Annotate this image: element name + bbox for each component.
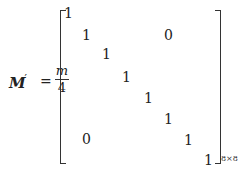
diag-8: 1	[204, 153, 213, 167]
diag-7: 1	[184, 133, 193, 147]
diag-6: 1	[164, 112, 173, 126]
diag-3: 1	[102, 47, 111, 61]
diag-2: 1	[82, 28, 91, 42]
upper-zero: 0	[164, 28, 173, 42]
lower-zero: 0	[82, 132, 91, 146]
right-bracket	[215, 10, 221, 164]
diag-4: 1	[122, 70, 131, 84]
diag-5: 1	[144, 91, 153, 105]
matrix-symbol: M′	[9, 72, 27, 92]
equals-sign: =	[40, 73, 52, 89]
matrix-size-subscript: 8×8	[221, 154, 238, 163]
diag-1: 1	[64, 6, 73, 20]
left-bracket	[60, 10, 66, 164]
